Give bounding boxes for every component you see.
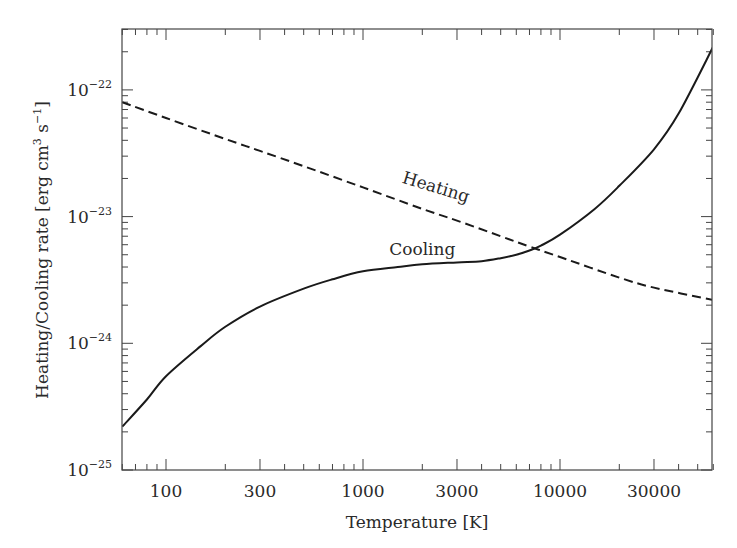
plot-series	[122, 47, 713, 427]
x-tick-labels: 100300100030001000030000	[150, 481, 681, 501]
x-axis-title: Temperature [K]	[346, 512, 489, 532]
cooling-curve	[122, 47, 713, 427]
y-axis-title: Heating/Cooling rate [erg cm3 s−1]	[31, 101, 52, 399]
y-tick-label: 10−24	[67, 331, 112, 353]
curve-annotations: HeatingCooling	[389, 167, 472, 259]
y-tick-label: 10−23	[67, 205, 112, 227]
heating-label: Heating	[400, 167, 472, 206]
x-tick-label: 1000	[341, 481, 384, 501]
y-tick-label: 10−22	[67, 78, 112, 100]
x-tick-label: 100	[150, 481, 182, 501]
y-tick-labels: 10−2210−2310−2410−25	[67, 78, 112, 480]
x-tick-label: 300	[244, 481, 276, 501]
x-tick-label: 30000	[627, 481, 681, 501]
y-tick-label: 10−25	[67, 458, 112, 480]
x-tick-label: 10000	[533, 481, 587, 501]
x-tick-label: 3000	[435, 481, 478, 501]
heating-curve	[122, 102, 713, 300]
cooling-label: Cooling	[389, 239, 455, 259]
heating-cooling-chart: 100300100030001000030000 10−2210−2310−24…	[0, 0, 737, 548]
